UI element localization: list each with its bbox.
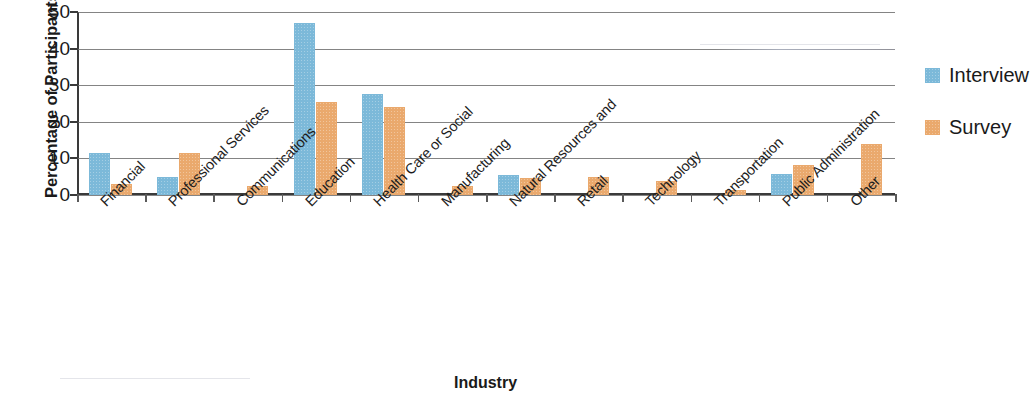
- y-tick-label: 50: [30, 2, 70, 21]
- y-tick-label: 10: [30, 148, 70, 167]
- y-tick-label: 40: [30, 39, 70, 58]
- scan-artifact: [60, 378, 250, 379]
- bar-interview: [362, 94, 383, 195]
- legend-item[interactable]: Interview: [925, 62, 1031, 88]
- legend-swatch-icon: [925, 68, 940, 83]
- bar-chart: Percentage of Participants 50403020100 F…: [0, 0, 1031, 409]
- chart-legend: InterviewSurvey: [925, 62, 1031, 166]
- bar-interview: [294, 23, 315, 195]
- x-axis-title-container: Industry: [0, 374, 1031, 392]
- x-axis-tick-labels: FinancialProfessional ServicesCommunicat…: [77, 198, 895, 348]
- legend-label: Interview: [949, 65, 1029, 85]
- x-tick-mark: [895, 194, 897, 202]
- y-tick-label: 0: [30, 185, 70, 204]
- legend-swatch-icon: [925, 120, 940, 135]
- y-tick-label: 30: [30, 75, 70, 94]
- x-axis-title: Industry: [454, 374, 517, 391]
- y-tick-label: 20: [30, 112, 70, 131]
- scan-artifact: [700, 44, 880, 45]
- y-axis-tick-labels: 50403020100: [0, 0, 70, 200]
- bar-group: [827, 12, 895, 195]
- legend-label: Survey: [949, 117, 1011, 137]
- legend-item[interactable]: Survey: [925, 114, 1031, 140]
